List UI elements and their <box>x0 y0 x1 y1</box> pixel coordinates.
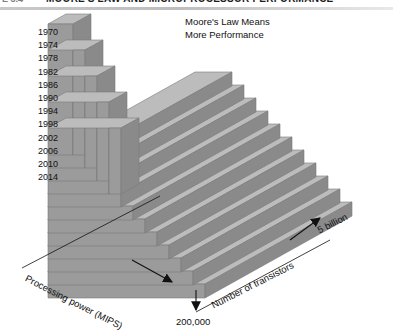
staircase-steps <box>48 14 352 298</box>
annotation-line-1: Moore's Law Means <box>185 16 270 29</box>
year-label: 2006 <box>14 147 58 160</box>
year-label: 1982 <box>14 68 58 81</box>
year-label: 1998 <box>14 120 58 133</box>
chart-stage: 1970 1974 1978 1982 1986 1990 1994 1998 … <box>0 10 393 336</box>
figure-number: E 3.4 <box>2 0 23 4</box>
year-label: 2002 <box>14 134 58 147</box>
figure-title: MOORE'S LAW AND MICROPROCESSOR PERFORMAN… <box>46 0 334 4</box>
figure-page: E 3.4 MOORE'S LAW AND MICROPROCESSOR PER… <box>0 0 393 336</box>
year-label: 2014 <box>14 173 58 186</box>
year-label: 1986 <box>14 81 58 94</box>
year-axis: 1970 1974 1978 1982 1986 1990 1994 1998 … <box>14 28 58 186</box>
isometric-staircase-chart <box>0 10 393 336</box>
annotation-line-2: More Performance <box>185 29 270 42</box>
chart-annotation: Moore's Law Means More Performance <box>185 16 270 41</box>
transistors-min-label: 200,000 <box>176 316 210 327</box>
year-label: 1978 <box>14 54 58 67</box>
